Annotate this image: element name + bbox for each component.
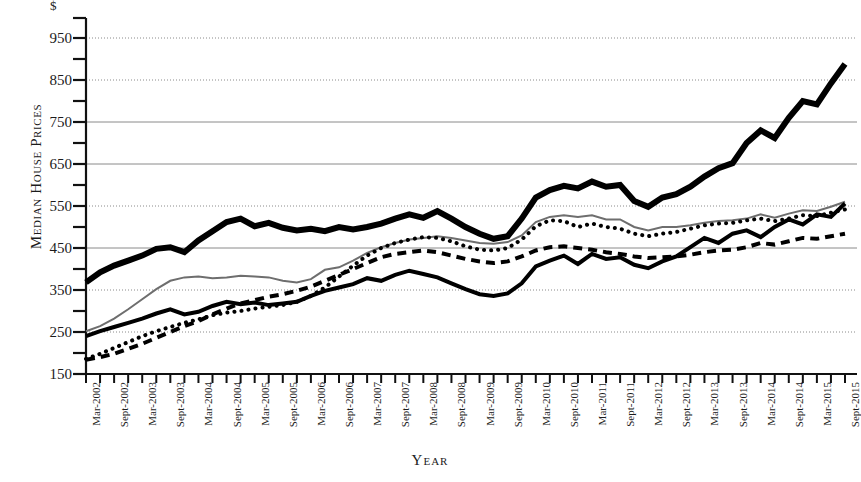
x-tick-label: Mar-2011 — [596, 382, 608, 425]
x-tick-label: Sept-2015 — [849, 382, 861, 427]
series-medium-black — [86, 204, 845, 337]
x-tick-label: Sept-2011 — [624, 382, 636, 427]
x-tick-label: Sept-2009 — [512, 382, 524, 427]
x-tick-label: Sept-2010 — [568, 382, 580, 427]
x-tick-label: Sept-2007 — [399, 382, 411, 427]
x-tick-label: Mar-2013 — [708, 382, 720, 426]
x-tick-label: Mar-2008 — [427, 382, 439, 426]
x-tick-label: Sept-2013 — [737, 382, 749, 427]
x-tick-label: Sept-2005 — [287, 382, 299, 427]
x-tick-label: Mar-2012 — [652, 382, 664, 426]
x-tick-label: Sept-2004 — [231, 382, 243, 427]
x-tick-label: Sept-2002 — [118, 382, 130, 427]
x-tick-label: Mar-2015 — [821, 382, 833, 426]
x-tick-label: Sept-2008 — [455, 382, 467, 427]
x-tick-label: Mar-2004 — [202, 382, 214, 426]
x-tick-label: Sept-2006 — [343, 382, 355, 427]
x-tick-label: Mar-2006 — [315, 382, 327, 426]
axis-ticks — [73, 18, 845, 383]
x-tick-label: Mar-2002 — [90, 382, 102, 426]
x-tick-label: Mar-2009 — [484, 382, 496, 426]
series-thick-black — [86, 64, 845, 282]
x-axis-label: Year — [0, 452, 860, 469]
x-tick-label: Sept-2014 — [793, 382, 805, 427]
x-tick-label: Mar-2010 — [540, 382, 552, 426]
x-tick-label: Mar-2005 — [259, 382, 271, 426]
x-tick-label: Sept-2012 — [680, 382, 692, 427]
gridlines — [86, 38, 857, 332]
x-tick-label: Mar-2003 — [146, 382, 158, 426]
series-dotted-black — [86, 209, 845, 359]
x-tick-label: Mar-2014 — [765, 382, 777, 426]
data-series-group — [86, 64, 845, 360]
series-dashed-black — [86, 234, 845, 360]
x-tick-label: Sept-2003 — [174, 382, 186, 427]
x-tick-label: Mar-2007 — [371, 382, 383, 426]
